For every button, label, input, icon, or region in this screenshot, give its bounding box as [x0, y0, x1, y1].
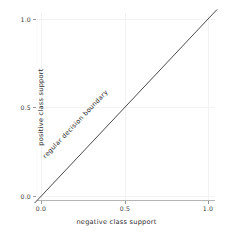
decision-boundary-line	[0, 0, 233, 238]
x-axis-label: negative class support	[0, 218, 233, 226]
y-axis-label-wrap: positive class support	[2, 13, 14, 201]
chart-figure: 0.0 0.5 1.0 0.0 0.5 1.0 regular decision…	[0, 0, 233, 238]
y-axis-label: positive class support	[37, 68, 45, 145]
